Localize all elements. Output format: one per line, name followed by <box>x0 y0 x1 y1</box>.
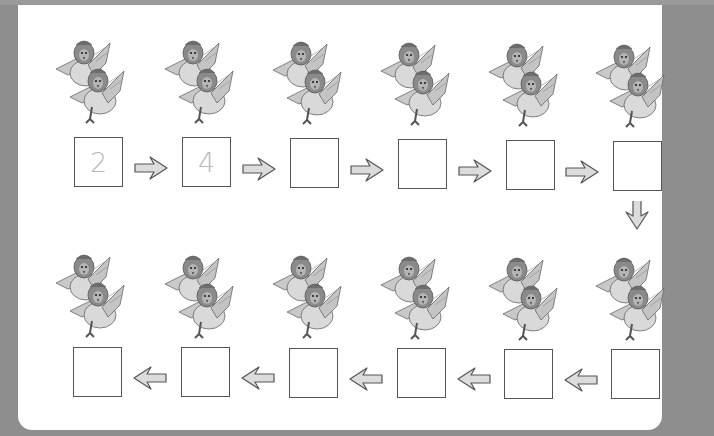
arrow-left-icon <box>133 366 167 390</box>
arrow-left-icon <box>457 367 491 391</box>
arrow-right-icon <box>350 158 384 182</box>
answer-box-8[interactable] <box>504 349 553 399</box>
chicken-pair-icon <box>586 248 670 348</box>
chicken-pair-icon <box>371 33 455 133</box>
answer-box-10[interactable] <box>289 348 338 398</box>
answer-box-7[interactable] <box>611 349 660 399</box>
chicken-pair-icon <box>46 31 130 131</box>
arrow-left-icon <box>564 368 598 392</box>
answer-box-1[interactable]: 2 <box>74 137 123 187</box>
answer-box-2[interactable]: 4 <box>182 137 231 187</box>
arrow-left-icon <box>241 366 275 390</box>
worksheet: 2 4 <box>18 5 662 430</box>
chicken-pair-icon <box>263 246 347 346</box>
answer-box-12[interactable] <box>73 347 122 397</box>
answer-box-6[interactable] <box>613 141 662 191</box>
answer-box-5[interactable] <box>506 140 555 190</box>
chicken-pair-icon <box>479 248 563 348</box>
chicken-pair-icon <box>46 245 130 345</box>
arrow-right-icon <box>134 156 168 180</box>
chicken-pair-icon <box>263 32 347 132</box>
chicken-pair-icon <box>479 34 563 134</box>
arrow-right-icon <box>565 160 599 184</box>
chicken-pair-icon <box>155 31 239 131</box>
answer-box-3[interactable] <box>290 138 339 188</box>
arrow-right-icon <box>458 159 492 183</box>
chicken-pair-icon <box>371 247 455 347</box>
arrow-right-icon <box>242 157 276 181</box>
chicken-pair-icon <box>155 246 239 346</box>
answer-box-4[interactable] <box>398 139 447 189</box>
arrow-down-icon <box>625 201 649 235</box>
answer-box-11[interactable] <box>181 347 230 397</box>
chicken-pair-icon <box>586 35 670 135</box>
arrow-left-icon <box>349 367 383 391</box>
answer-box-9[interactable] <box>397 348 446 398</box>
